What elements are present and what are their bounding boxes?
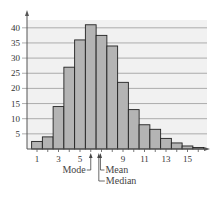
- histogram-bar: [107, 46, 118, 149]
- y-tick-label: 35: [11, 38, 21, 48]
- x-tick-label: 13: [162, 154, 172, 164]
- histogram-bar: [171, 143, 182, 149]
- histogram-bar: [161, 138, 172, 149]
- y-tick-label: 30: [11, 53, 21, 63]
- x-tick-label: 15: [183, 154, 193, 164]
- x-tick-label: 9: [121, 154, 126, 164]
- y-tick-label: 10: [11, 114, 21, 124]
- median-label: Median: [106, 175, 137, 186]
- y-tick-label: 25: [11, 68, 21, 78]
- histogram-bar: [75, 40, 86, 149]
- histogram-bar: [128, 110, 139, 149]
- histogram-bar: [64, 67, 75, 149]
- x-tick-label: 1: [35, 154, 40, 164]
- y-tick-label: 15: [11, 99, 21, 109]
- mean-label: Mean: [105, 164, 128, 175]
- histogram-bar: [85, 25, 96, 149]
- annotations: ModeMeanMedian: [62, 153, 136, 186]
- histogram-bar: [53, 107, 64, 149]
- histogram-bar: [150, 129, 161, 149]
- mode-label: Mode: [62, 164, 86, 175]
- histogram-bar: [118, 82, 129, 149]
- mode-arrow-icon: [89, 153, 93, 158]
- y-tick-label: 40: [11, 23, 21, 33]
- y-tick-label: 5: [16, 129, 21, 139]
- histogram-bar: [42, 137, 53, 149]
- x-tick-label: 3: [56, 154, 61, 164]
- x-tick-label: 5: [78, 154, 83, 164]
- histogram-bar: [32, 141, 43, 149]
- histogram-bar: [139, 125, 150, 149]
- histogram-bar: [96, 35, 107, 149]
- y-axis-arrow-icon: [25, 10, 29, 16]
- x-tick-label: 11: [140, 154, 149, 164]
- x-axis-labels: 1359111315: [35, 154, 193, 164]
- y-tick-label: 20: [11, 83, 21, 93]
- y-axis-labels: 510152025303540: [11, 23, 21, 139]
- histogram-chart: 510152025303540 1359111315 ModeMeanMedia…: [0, 0, 222, 197]
